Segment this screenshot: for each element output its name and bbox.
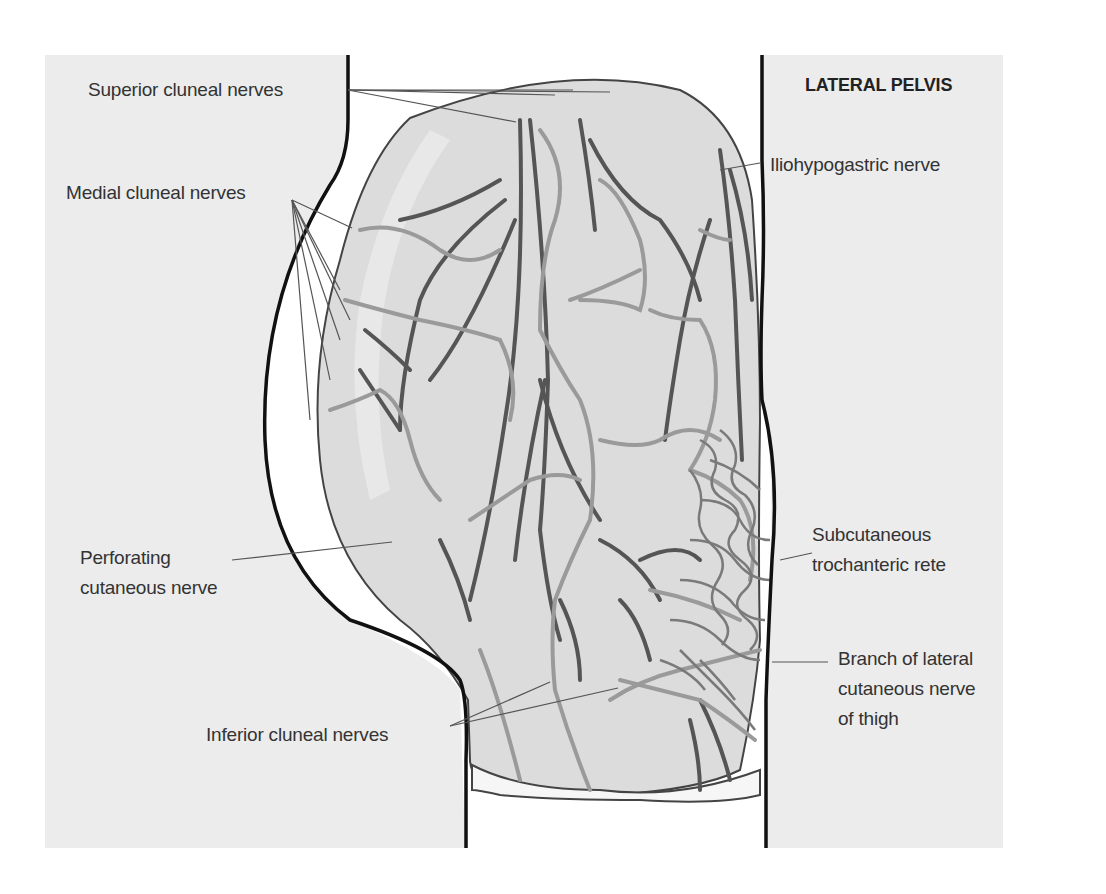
gluteal-tissue	[318, 80, 761, 795]
label-line: trochanteric rete	[812, 550, 946, 580]
label-branch-lateral-cutaneous-nerve-thigh: Branch of lateralcutaneous nerveof thigh	[838, 644, 976, 734]
label-line: Branch of lateral	[838, 644, 976, 674]
label-line: cutaneous nerve	[838, 674, 976, 704]
label-superior-cluneal-nerves: Superior cluneal nerves	[88, 75, 283, 105]
figure-title: LATERAL PELVIS	[805, 70, 952, 100]
label-medial-cluneal-nerves: Medial cluneal nerves	[66, 178, 246, 208]
label-line: Subcutaneous	[812, 520, 946, 550]
label-subcutaneous-trochanteric-rete: Subcutaneoustrochanteric rete	[812, 520, 946, 580]
label-perforating-cutaneous-nerve: Perforatingcutaneous nerve	[80, 543, 218, 603]
label-line: Medial cluneal nerves	[66, 178, 246, 208]
label-line: cutaneous nerve	[80, 573, 218, 603]
label-line: Superior cluneal nerves	[88, 75, 283, 105]
lateral-pelvis-illustration	[0, 0, 1106, 894]
label-iliohypogastric-nerve: Iliohypogastric nerve	[770, 150, 940, 180]
label-line: Perforating	[80, 543, 218, 573]
label-line: Inferior cluneal nerves	[206, 720, 388, 750]
label-line: of thigh	[838, 704, 976, 734]
leader-line-subcutaneous-trochanteric-rete	[780, 553, 812, 560]
figure-stage: LATERAL PELVISSuperior cluneal nervesMed…	[0, 0, 1106, 894]
label-line: Iliohypogastric nerve	[770, 150, 940, 180]
label-inferior-cluneal-nerves: Inferior cluneal nerves	[206, 720, 388, 750]
